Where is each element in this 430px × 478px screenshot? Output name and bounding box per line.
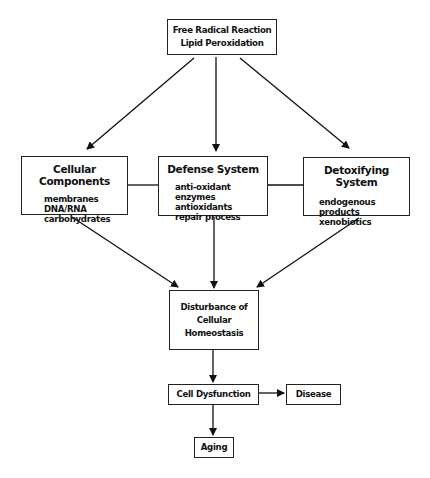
node-cell-dysfunction: Cell Dysfunction	[168, 384, 259, 405]
node-disease: Disease	[286, 384, 341, 405]
node-item: DNA/RNA	[44, 204, 127, 214]
node-label: Cell Dysfunction	[176, 388, 250, 401]
node-title: Detoxifying System	[304, 164, 409, 188]
node-item: endogenous products	[319, 197, 409, 217]
node-line: Cellular Homeostasis	[170, 314, 258, 340]
node-item: antioxidants	[175, 202, 267, 212]
node-detoxifying-system: Detoxifying System endogenous products x…	[303, 157, 410, 216]
arrow-cellular-to-homeostasis	[72, 217, 178, 287]
node-title: Defense System	[159, 163, 267, 175]
node-disturbance-homeostasis: Disturbance of Cellular Homeostasis	[169, 290, 259, 350]
node-aging: Aging	[194, 437, 234, 458]
node-label: Disease	[296, 388, 332, 401]
node-cellular-components: Cellular Components membranes DNA/RNA ca…	[21, 156, 128, 215]
node-line: Lipid Peroxidation	[180, 37, 263, 50]
node-item: xenobiotics	[319, 217, 409, 227]
node-free-radical-reaction: Free Radical Reaction Lipid Peroxidation	[167, 19, 277, 55]
node-line: Free Radical Reaction	[173, 24, 272, 37]
node-label: Aging	[201, 441, 228, 454]
node-line: Disturbance of	[180, 301, 247, 314]
connector-layer	[0, 0, 430, 478]
arrow-top-to-cellular	[87, 58, 194, 149]
node-item: carbohydrates	[44, 214, 127, 224]
arrow-detox-to-homeostasis	[257, 218, 359, 287]
node-title: Cellular Components	[22, 163, 127, 187]
node-defense-system: Defense System anti-oxidant enzymes anti…	[158, 156, 268, 216]
node-item: anti-oxidant enzymes	[175, 182, 267, 202]
arrow-top-to-detox	[240, 58, 349, 148]
node-item: membranes	[44, 194, 127, 204]
node-item: repair process	[175, 212, 267, 222]
